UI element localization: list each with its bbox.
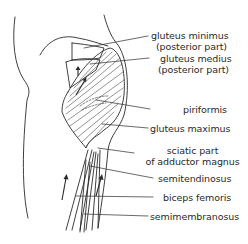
label-line: piriformis (183, 104, 227, 115)
diagonal-arrow-gluteus-maximus (76, 80, 85, 95)
label-line: gluteus medius (160, 53, 232, 64)
label-gluteus-minimus: gluteus minimus (posterior part) (151, 30, 229, 52)
label-line: (posterior part) (151, 41, 229, 52)
label-line: (posterior part) (158, 64, 232, 75)
gluteus-minimus-muscle (72, 43, 104, 60)
label-biceps-femoris: biceps femoris (163, 192, 231, 203)
body-outline-left (14, 17, 29, 218)
label-line: of adductor magnus (137, 156, 248, 167)
label-line: sciatic part (137, 145, 248, 156)
thigh-muscles (66, 150, 100, 232)
piriformis-dashed (80, 96, 108, 110)
label-gluteus-medius: gluteus medius (posterior part) (160, 53, 232, 75)
label-semimembranosus: semimembranosus (150, 211, 239, 222)
label-piriformis: piriformis (183, 104, 227, 115)
label-line: semitendinosus (158, 173, 231, 184)
label-semitendinosus: semitendinosus (158, 173, 231, 184)
upward-arrow-left-thigh (62, 178, 66, 200)
iliac-crest (40, 37, 108, 55)
label-line: gluteus minimus (151, 30, 229, 41)
label-adductor-magnus: sciatic part of adductor magnus (137, 145, 248, 167)
label-line: semimembranosus (150, 211, 239, 222)
label-line: biceps femoris (163, 192, 231, 203)
label-line: gluteus maximus (150, 123, 230, 134)
label-gluteus-maximus: gluteus maximus (150, 123, 230, 134)
